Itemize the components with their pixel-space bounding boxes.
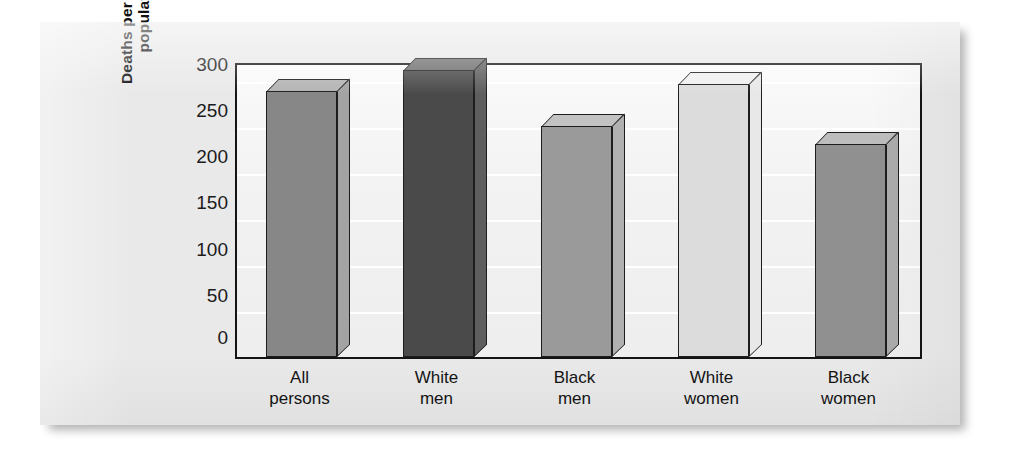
bar-front-face xyxy=(815,144,886,357)
y-tick-150: 150 xyxy=(182,193,228,212)
y-axis-tick-labels: 300 250 200 150 100 50 0 xyxy=(178,22,228,425)
y-axis-title-line-1: Deaths per 100,000 xyxy=(118,0,135,84)
x-label-black-men: Blackmen xyxy=(519,367,630,409)
bar-side-face xyxy=(886,132,899,357)
x-label-line-2: men xyxy=(381,388,492,409)
y-tick-100: 100 xyxy=(182,240,228,259)
bar-front-face xyxy=(678,84,749,357)
x-label-white-women: Whitewomen xyxy=(656,367,767,409)
bar-side-face xyxy=(612,113,625,357)
bar-black-women xyxy=(815,131,899,357)
bar-front-face xyxy=(403,70,474,357)
bar-all-persons xyxy=(266,78,350,357)
bar-side-face xyxy=(337,78,350,357)
chart-card: Deaths per 100,000 population 300 250 20… xyxy=(40,22,960,425)
y-tick-0: 0 xyxy=(182,328,228,347)
x-label-line-1: Black xyxy=(793,367,904,388)
bar-black-men xyxy=(541,113,625,357)
y-tick-200: 200 xyxy=(182,147,228,166)
page-canvas: Deaths per 100,000 population 300 250 20… xyxy=(0,0,1012,464)
x-axis-category-labels: AllpersonsWhitemenBlackmenWhitewomenBlac… xyxy=(235,367,922,423)
y-tick-50: 50 xyxy=(182,286,228,305)
x-label-line-2: persons xyxy=(244,388,355,409)
plot-area xyxy=(235,63,922,359)
bar-white-men xyxy=(403,57,487,357)
bar-side-face xyxy=(474,57,487,357)
x-label-line-1: Black xyxy=(519,367,630,388)
bar-front-face xyxy=(541,126,612,357)
x-label-line-2: women xyxy=(793,388,904,409)
x-label-line-1: All xyxy=(244,367,355,388)
x-label-white-men: Whitemen xyxy=(381,367,492,409)
x-label-line-2: women xyxy=(656,388,767,409)
x-label-line-1: White xyxy=(381,367,492,388)
bar-white-women xyxy=(678,71,762,357)
y-tick-300: 300 xyxy=(182,55,228,74)
x-label-all-persons: Allpersons xyxy=(244,367,355,409)
x-label-black-women: Blackwomen xyxy=(793,367,904,409)
bar-side-face xyxy=(749,71,762,357)
y-axis-title: Deaths per 100,000 population xyxy=(118,0,144,117)
bar-front-face xyxy=(266,91,337,357)
y-axis-title-line-2: population xyxy=(135,0,152,117)
y-tick-250: 250 xyxy=(182,101,228,120)
x-label-line-2: men xyxy=(519,388,630,409)
x-label-line-1: White xyxy=(656,367,767,388)
